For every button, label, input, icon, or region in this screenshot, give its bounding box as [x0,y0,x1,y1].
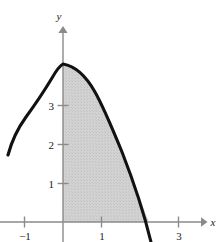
x-tick-label-neg1: −1 [19,230,31,242]
y-tick-label-3: 3 [49,100,55,112]
shaded-area-under-curve [63,64,149,222]
x-tick-label-3: 3 [176,230,182,242]
y-tick-label-2: 2 [49,139,55,151]
x-tick-label-1: 1 [99,230,105,242]
y-axis-arrowhead [58,26,67,33]
x-axis-label: x [210,216,216,228]
plot-canvas: −1 1 3 1 2 3 y x [0,0,221,242]
x-axis-arrowhead [201,217,208,227]
figure-container: −1 1 3 1 2 3 y x [0,0,221,242]
y-tick-label-1: 1 [49,178,55,190]
y-axis-label: y [56,10,62,22]
